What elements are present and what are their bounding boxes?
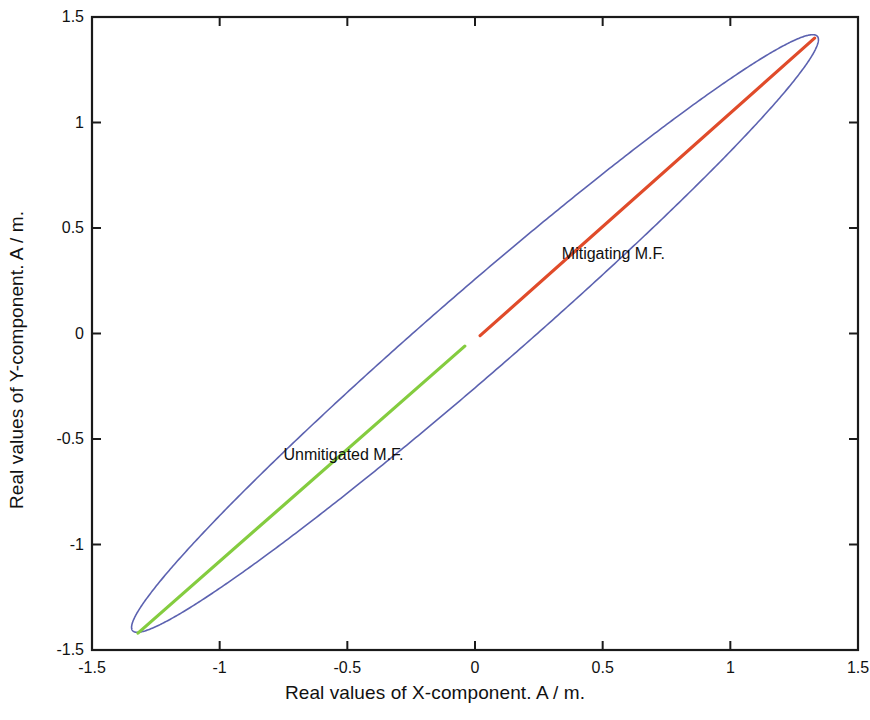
y-tick-label: -1.5	[56, 641, 84, 659]
x-tick-label: -1.5	[78, 659, 106, 677]
chart-annotation: Unmitigated M.F.	[284, 446, 404, 464]
x-tick-label: 1.5	[847, 659, 869, 677]
x-tick-label: 0.5	[592, 659, 614, 677]
y-tick-label: -1	[70, 536, 84, 554]
y-tick-label: 0.5	[62, 219, 84, 237]
chart-annotation: Mitigating M.F.	[562, 245, 665, 263]
chart-figure: -1.5-1-0.500.511.5 1.510.50-0.5-1-1.5 Mi…	[0, 0, 870, 720]
x-tick-label: -1	[213, 659, 227, 677]
y-tick-label: -0.5	[56, 430, 84, 448]
y-tick-label: 1	[75, 114, 84, 132]
y-tick-label: 0	[75, 325, 84, 343]
x-tick-label: 0	[471, 659, 480, 677]
plot-canvas	[0, 0, 870, 720]
y-tick-label: 1.5	[62, 8, 84, 26]
x-tick-label: 1	[726, 659, 735, 677]
x-tick-label: -0.5	[334, 659, 362, 677]
x-axis-title: Real values of X-component. A / m.	[0, 682, 870, 704]
plot-frame	[92, 17, 858, 650]
y-axis-title: Real values of Y-component. A / m.	[0, 0, 34, 720]
